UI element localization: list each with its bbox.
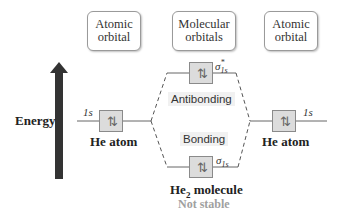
left-atom-orbital-box: ⇅ [99, 110, 123, 132]
molecule-prefix: He [170, 182, 186, 197]
bonding-orbital-box: ⇅ [189, 156, 213, 178]
stability-label: Not stable [178, 197, 230, 212]
energy-axis-label: Energy [15, 113, 55, 129]
right-atom-name: He atom [262, 134, 309, 150]
bonding-orbital-label: σ1s [216, 154, 229, 169]
molecule-suffix: molecule [190, 182, 242, 197]
left-orbital-label: 1s [83, 106, 93, 118]
right-atom-orbital-box: ⇅ [272, 110, 296, 132]
orbital-subscript: 1s [220, 66, 227, 75]
right-orbital-label: 1s [303, 106, 313, 118]
orbital-subscript: 1s [221, 160, 228, 169]
antibonding-orbital-box: ⇅ [189, 62, 213, 84]
antibonding-label: Antibonding [168, 92, 235, 106]
bonding-label: Bonding [180, 132, 228, 146]
antibonding-orbital-label: σ*1s [215, 58, 228, 75]
left-atom-name: He atom [90, 134, 137, 150]
